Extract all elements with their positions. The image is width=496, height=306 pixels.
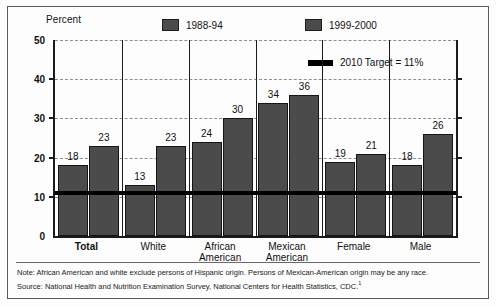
footnote-source-text: Source: National Health and Nutrition Ex… [17, 282, 358, 291]
footnotes: Note: African American and white exclude… [17, 268, 479, 292]
figure-container: Percent 1988-94 1999-2000 2010 Target = … [0, 0, 496, 306]
bar [289, 95, 319, 236]
category-separator [389, 40, 390, 236]
category-separator [256, 40, 257, 236]
bar-value-label: 34 [268, 89, 279, 100]
bar-value-label: 24 [201, 128, 212, 139]
category-separator [189, 40, 190, 236]
x-axis-category-label: Total [75, 241, 98, 252]
y-axis-tick [456, 157, 462, 159]
y-axis-tick-label: 50 [34, 35, 45, 46]
y-axis-tick [49, 157, 55, 159]
y-axis-tick [49, 117, 55, 119]
bar-value-label: 18 [67, 151, 78, 162]
bar-value-label: 23 [165, 132, 176, 143]
x-axis-category-label: African American [199, 241, 241, 263]
bar [392, 165, 422, 236]
x-axis-category-label: Mexican American [266, 241, 308, 263]
bar [223, 118, 253, 236]
target-reference-line [55, 191, 456, 195]
category-separator [122, 40, 123, 236]
bar [423, 134, 453, 236]
legend-item-1988-94: 1988-94 [162, 19, 223, 31]
footnote-source: Source: National Health and Nutrition Ex… [17, 278, 479, 292]
bar [258, 103, 288, 236]
bar [325, 162, 355, 236]
y-axis-tick [456, 196, 462, 198]
bar [192, 142, 222, 236]
y-axis-tick [456, 117, 462, 119]
bar-value-label: 19 [335, 148, 346, 159]
legend-item-1999-2000: 1999-2000 [305, 19, 377, 31]
bar-value-label: 26 [433, 120, 444, 131]
y-axis-tick-label: 40 [34, 74, 45, 85]
x-axis-category-label: White [140, 241, 166, 252]
bar [58, 165, 88, 236]
bar-value-label: 23 [98, 132, 109, 143]
y-axis-tick [49, 78, 55, 80]
y-axis-tick-label: 30 [34, 113, 45, 124]
footnote-divider [16, 262, 480, 263]
footnote-note: Note: African American and white exclude… [17, 268, 479, 278]
y-axis-title: Percent [46, 14, 81, 25]
y-axis-tick [456, 78, 462, 80]
y-axis-tick-label: 10 [34, 191, 45, 202]
legend-label-1999-2000: 1999-2000 [329, 20, 377, 31]
bar-value-label: 13 [134, 171, 145, 182]
category-separator [322, 40, 323, 236]
bar-value-label: 30 [232, 104, 243, 115]
y-axis-tick-label: 0 [39, 231, 45, 242]
y-axis-tick [49, 196, 55, 198]
footnote-superscript: 1 [358, 280, 361, 286]
legend-swatch-1988-94 [162, 19, 179, 31]
legend-swatch-1999-2000 [305, 19, 322, 31]
x-axis-category-label: Male [410, 241, 432, 252]
plot-area: 01020304050182313232430343619211826 [53, 40, 458, 238]
bar-value-label: 36 [299, 81, 310, 92]
bar-value-label: 21 [366, 140, 377, 151]
x-axis-category-label: Female [337, 241, 370, 252]
legend-label-1988-94: 1988-94 [186, 20, 223, 31]
y-axis-tick-label: 20 [34, 152, 45, 163]
bar-value-label: 18 [402, 151, 413, 162]
